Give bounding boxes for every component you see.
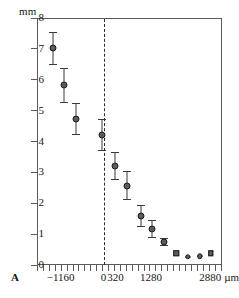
data-point-marker	[173, 251, 179, 257]
x-tick	[173, 265, 174, 271]
data-point-marker	[61, 82, 68, 89]
data-point-marker	[137, 212, 144, 219]
error-bar-cap-upper	[111, 152, 119, 153]
y-tick-label-3: 3	[18, 166, 44, 177]
error-bar-cap-lower	[123, 199, 131, 200]
error-bar-cap-upper	[98, 119, 106, 120]
x-tick	[90, 265, 91, 271]
x-axis-unit-label: µm	[224, 272, 239, 283]
x-tick	[167, 265, 168, 271]
x-tick	[37, 265, 38, 271]
data-point-marker	[148, 226, 155, 233]
y-tick-label-1: 1	[18, 228, 44, 239]
error-bar-cap-upper	[137, 205, 145, 206]
x-tick	[84, 265, 85, 271]
data-point-marker	[123, 182, 130, 189]
y-tick-label-0: 0	[18, 259, 44, 270]
reference-line	[104, 19, 105, 265]
data-point-marker	[208, 251, 214, 257]
y-tick-label-8: 8	[18, 12, 44, 23]
error-bar-cap-lower	[60, 102, 68, 103]
data-point-marker	[197, 253, 203, 259]
error-bar-cap-upper	[123, 171, 131, 172]
x-tick	[132, 265, 133, 271]
error-bar-cap-lower	[98, 150, 106, 151]
plot-area	[37, 18, 222, 265]
error-bar-cap-lower	[137, 226, 145, 227]
x-tick-label-0: 0	[101, 272, 107, 283]
error-bar-cap-upper	[148, 220, 156, 221]
panel-label: A	[11, 272, 19, 283]
x-tick	[138, 265, 139, 271]
x-tick	[185, 265, 186, 271]
x-tick	[78, 265, 79, 271]
error-bar-cap-upper	[72, 103, 80, 104]
y-tick-label-6: 6	[18, 74, 44, 85]
error-bar-cap-upper	[60, 68, 68, 69]
x-tick-label-2880: 2880	[199, 272, 221, 283]
error-bar-cap-upper	[49, 32, 57, 33]
data-point-marker	[185, 254, 191, 260]
x-tick	[96, 265, 97, 271]
y-tick-label-5: 5	[18, 105, 44, 116]
x-tick	[191, 265, 192, 271]
x-tick	[179, 265, 180, 271]
error-bar-cap-lower	[72, 134, 80, 135]
x-tick	[126, 265, 127, 271]
chart-figure: mm 012345678 −1160032012802880µm A	[0, 0, 239, 298]
data-point-marker	[111, 162, 118, 169]
y-tick-label-7: 7	[18, 43, 44, 54]
error-bar-cap-lower	[111, 179, 119, 180]
error-bar-cap-lower	[49, 64, 57, 65]
x-tick-label--1160: −1160	[47, 272, 75, 283]
x-tick	[43, 265, 44, 271]
error-bar-cap-lower	[148, 237, 156, 238]
data-point-marker	[73, 115, 80, 122]
data-point-marker	[160, 239, 167, 246]
y-tick-label-4: 4	[18, 136, 44, 147]
x-tick-label-320: 320	[107, 272, 124, 283]
y-tick-label-2: 2	[18, 197, 44, 208]
x-tick-label-1280: 1280	[140, 272, 162, 283]
data-point-marker	[49, 45, 56, 52]
x-tick	[197, 265, 198, 271]
